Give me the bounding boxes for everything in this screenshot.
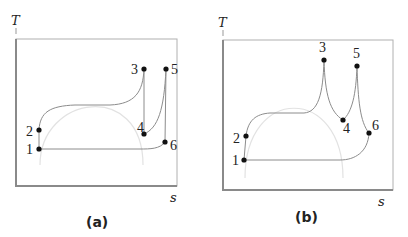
state-label-1-b: 1: [232, 153, 239, 168]
state-point-1-a: [36, 146, 41, 151]
state-label-1-a: 1: [26, 142, 33, 157]
process-2-3-b: [246, 60, 324, 136]
caption-b: (b): [295, 209, 318, 225]
state-label-2-b: 2: [233, 131, 240, 146]
state-point-2-a: [36, 127, 41, 132]
state-label-2-a: 2: [26, 124, 33, 139]
panel-a: T s 1 2 3 4 5 6 (a): [11, 13, 178, 230]
saturation-dome-b: [245, 108, 343, 178]
process-4-5-b: [343, 66, 357, 120]
state-point-2-b: [243, 133, 248, 138]
plot-frame-b: [223, 40, 393, 190]
state-label-4-b: 4: [343, 121, 350, 136]
process-6-1-a: [39, 142, 165, 149]
state-point-3-a: [141, 66, 146, 71]
state-point-6-a: [162, 139, 167, 144]
state-label-3-a: 3: [131, 62, 138, 77]
state-point-5-b: [354, 63, 359, 68]
x-axis-label-b: s: [378, 194, 385, 209]
state-point-1-b: [241, 157, 246, 162]
process-6-1-b: [244, 133, 369, 160]
y-axis-label-a: T: [11, 13, 21, 28]
process-4-5-a: [144, 69, 166, 134]
x-axis-label-a: s: [170, 190, 177, 205]
state-label-6-b: 6: [372, 118, 379, 133]
state-label-6-a: 6: [170, 138, 177, 153]
state-point-5-a: [163, 66, 168, 71]
state-label-5-a: 5: [171, 62, 178, 77]
state-point-6-b: [366, 130, 371, 135]
state-label-4-a: 4: [137, 120, 144, 135]
saturation-dome-a: [40, 107, 143, 165]
state-label-3-b: 3: [319, 40, 326, 55]
process-5-6-b: [357, 66, 369, 133]
caption-a: (a): [86, 214, 108, 230]
process-1-2-b: [244, 136, 246, 160]
y-axis-label-b: T: [218, 15, 228, 30]
ts-diagrams: T s 1 2 3 4 5 6 (a) T s: [0, 0, 408, 237]
state-label-5-b: 5: [353, 46, 360, 61]
panel-b: T s 1 2 3 4 5 6 (b): [218, 15, 393, 225]
state-point-3-b: [321, 57, 326, 62]
process-3-4-b: [324, 60, 343, 120]
